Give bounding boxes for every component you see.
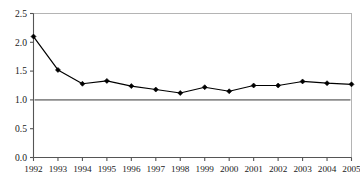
y-tick-label: 1.5 [15, 65, 27, 76]
x-tick-label: 1996 [122, 164, 141, 174]
x-tick-label: 1997 [147, 164, 166, 174]
x-tick-label: 1998 [171, 164, 190, 174]
chart-canvas: 0.00.51.01.52.02.5 199219931994199519961… [0, 0, 360, 183]
x-tick-label: 1992 [24, 164, 43, 174]
y-tick-label: 0.5 [15, 123, 27, 134]
x-tick-label: 1994 [73, 164, 92, 174]
x-tick-label: 1995 [98, 164, 117, 174]
x-tick-label: 1999 [196, 164, 215, 174]
x-tick-label: 2000 [220, 164, 239, 174]
x-tick-label: 2002 [269, 164, 288, 174]
y-tick-label: 1.0 [15, 94, 27, 105]
y-tick-label: 0.0 [15, 152, 27, 163]
x-tick-label: 2001 [244, 164, 263, 174]
x-tick-label: 2003 [293, 164, 312, 174]
y-tick-label: 2.0 [15, 37, 27, 48]
x-tick-label: 1993 [49, 164, 68, 174]
x-tick-label: 2005 [342, 164, 360, 174]
line-chart-figure: 0.00.51.01.52.02.5 199219931994199519961… [0, 0, 360, 183]
y-tick-label: 2.5 [15, 8, 27, 19]
x-tick-label: 2004 [318, 164, 337, 174]
